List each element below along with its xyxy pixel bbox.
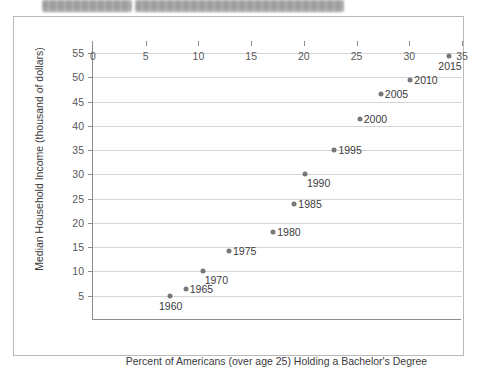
data-point [183,287,188,292]
y-axis-tick-label: 40 [72,120,84,132]
x-axis-tick-label: 30 [403,50,415,62]
data-point [378,92,383,97]
y-axis-tick-label: 50 [72,71,84,83]
chart-card: Median Household Income (thousand of dol… [13,16,464,356]
y-gridline [93,77,462,78]
y-axis-tick-label: 10 [72,265,84,277]
data-point [332,147,337,152]
x-axis-tick-label: 20 [298,50,310,62]
data-point [271,229,276,234]
data-point-label: 2005 [385,88,408,100]
redacted-title-bar-left-texture [44,0,130,12]
x-axis-tick-label: 5 [143,50,149,62]
x-axis-tick [357,41,358,46]
y-axis-tick-label: 30 [72,168,84,180]
redacted-title-bar-right-texture [137,0,342,12]
y-axis-tick-label: 45 [72,96,84,108]
data-point-label: 2015 [438,60,461,72]
y-gridline [93,150,462,151]
data-point-label: 1970 [205,274,228,286]
y-axis-tick [88,199,93,200]
chart-screenshot: Median Household Income (thousand of dol… [0,0,478,374]
data-point-label: 2010 [414,74,437,86]
data-point [408,77,413,82]
data-point-label: 1985 [298,198,321,210]
y-axis-tick-label: 5 [78,290,84,302]
y-axis-tick [88,296,93,297]
x-axis-tick [409,41,410,46]
y-gridline [93,296,462,297]
y-gridline [93,271,462,272]
data-point-label: 1975 [233,245,256,257]
y-axis-tick [88,102,93,103]
x-axis-tick [146,41,147,46]
data-point-label: 1960 [159,300,182,312]
y-axis-tick-label: 35 [72,144,84,156]
data-point-label: 1995 [338,144,361,156]
data-point [167,293,172,298]
y-axis-tick [88,126,93,127]
y-gridline [93,199,462,200]
data-point [357,116,362,121]
x-axis-tick-label: 0 [90,50,96,62]
y-axis-tick-label: 15 [72,241,84,253]
y-gridline [93,126,462,127]
plot-area: 5101520253035404550550510152025303519601… [92,41,461,320]
data-point [447,53,452,58]
x-axis-title: Percent of Americans (over age 25) Holdi… [92,355,461,367]
y-axis-tick-label: 55 [72,47,84,59]
data-point [302,172,307,177]
data-point [227,249,232,254]
y-axis-tick [88,271,93,272]
x-axis-tick [198,41,199,46]
y-axis-title: Median Household Income (thousand of dol… [33,31,45,287]
y-gridline [93,174,462,175]
y-axis-tick [88,174,93,175]
data-point [292,201,297,206]
y-gridline [93,247,462,248]
y-axis-tick [88,150,93,151]
data-point-label: 1980 [277,226,300,238]
y-axis-tick [88,77,93,78]
data-point-label: 1990 [307,177,330,189]
x-axis-tick [304,41,305,46]
y-gridline [93,223,462,224]
y-gridline [93,102,462,103]
y-axis-tick [88,223,93,224]
y-axis-tick [88,247,93,248]
data-point [200,269,205,274]
y-axis-tick-label: 25 [72,193,84,205]
redacted-header-row [0,0,478,12]
x-axis-tick [251,41,252,46]
x-axis-tick [462,41,463,46]
y-axis-tick-label: 20 [72,217,84,229]
x-axis-tick-label: 10 [193,50,205,62]
data-point-label: 2000 [364,113,387,125]
x-axis-tick-label: 15 [245,50,257,62]
x-axis-tick-label: 25 [351,50,363,62]
